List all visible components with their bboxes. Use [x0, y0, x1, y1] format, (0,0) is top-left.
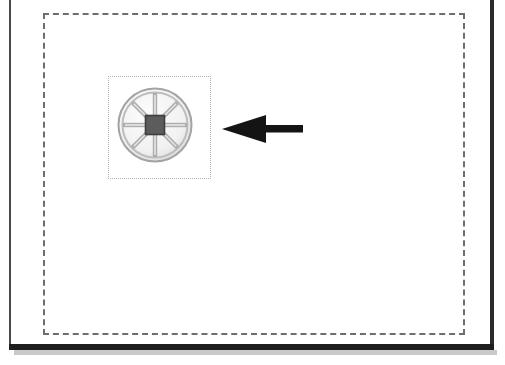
page-caption	[0, 0, 1, 1]
page-right-edge	[490, 0, 494, 346]
spoked-wheel-graphic[interactable]	[116, 86, 194, 164]
document-page	[0, 0, 505, 365]
page-bottom-shadow	[14, 350, 497, 355]
page-left-edge	[9, 0, 11, 348]
wheel-icon	[116, 86, 194, 164]
wheel-hub	[146, 116, 165, 135]
pointer-arrow	[222, 112, 304, 146]
arrow-left-icon	[222, 112, 304, 146]
dashed-boundary	[43, 13, 465, 335]
